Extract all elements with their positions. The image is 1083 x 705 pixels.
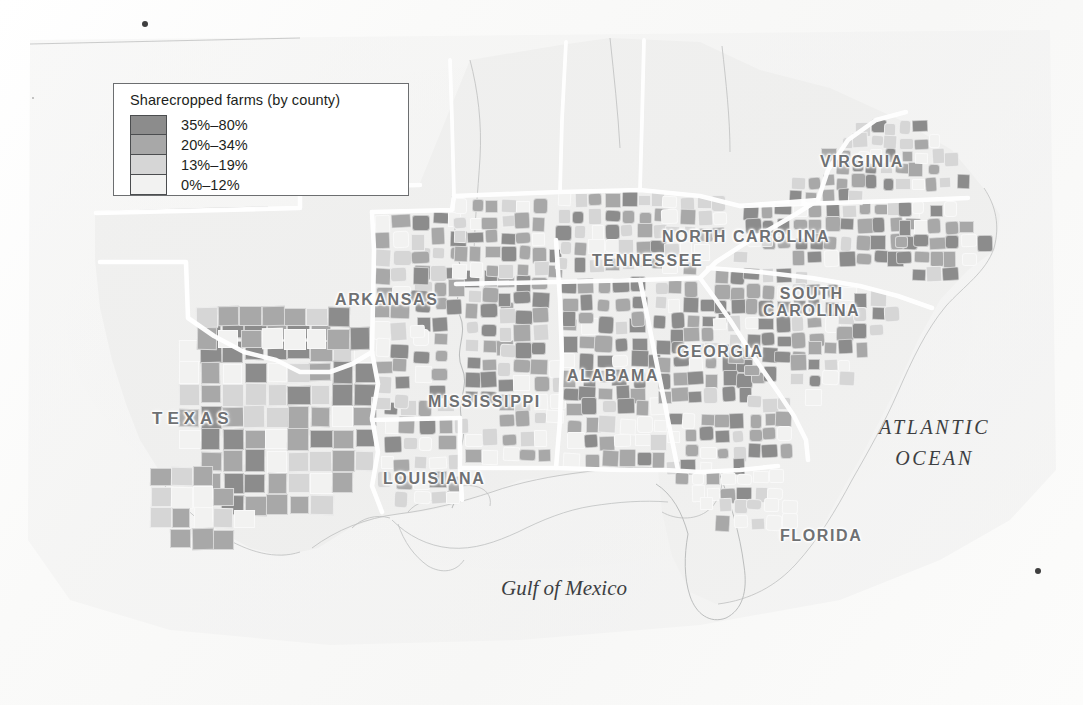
county-cell (790, 373, 804, 385)
county-cell (391, 214, 411, 229)
county-cell (589, 259, 605, 273)
county-cell (179, 361, 199, 384)
county-cell (929, 133, 940, 147)
county-cell (287, 386, 311, 405)
county-cell (574, 257, 586, 273)
county-cell (374, 248, 392, 267)
county-cell (744, 365, 760, 377)
county-cell (758, 317, 774, 329)
county-cell (683, 296, 699, 313)
county-cell (706, 472, 720, 485)
county-cell (926, 265, 942, 282)
county-cell (721, 473, 737, 485)
county-cell (764, 498, 780, 512)
county-cell (284, 328, 306, 349)
county-cell (579, 293, 593, 311)
county-cell (332, 450, 355, 472)
county-cell (776, 267, 793, 283)
county-cell (515, 409, 531, 426)
county-cell (533, 394, 548, 410)
county-cell (327, 329, 350, 350)
county-cell (517, 264, 530, 276)
county-cell (213, 530, 234, 550)
county-cell (604, 224, 619, 240)
county-cell (432, 247, 445, 260)
county-cell (684, 226, 697, 242)
county-cell (171, 487, 194, 509)
county-cell (825, 216, 841, 233)
county-cell (432, 212, 449, 225)
county-cell (808, 204, 822, 218)
county-cell (791, 177, 806, 191)
county-cell (373, 232, 390, 249)
county-cell (661, 209, 679, 225)
county-cell (822, 370, 839, 386)
legend-swatch (130, 175, 167, 195)
county-cell (392, 286, 411, 302)
county-cell (393, 250, 413, 266)
county-cell (213, 488, 235, 506)
county-cell (736, 486, 752, 499)
county-cell (636, 416, 653, 433)
county-cell (637, 452, 652, 466)
county-cell (383, 436, 401, 453)
county-cell (612, 354, 629, 367)
county-cell (597, 414, 615, 432)
county-cell (807, 176, 821, 189)
county-cell (531, 306, 549, 322)
county-cell (584, 433, 599, 447)
county-cell (961, 233, 978, 247)
county-cell (531, 342, 546, 355)
county-cell (667, 280, 681, 294)
county-cell (782, 499, 799, 513)
county-cell (429, 384, 447, 398)
county-cell (793, 219, 808, 230)
county-cell (657, 373, 670, 390)
county-cell (287, 362, 310, 382)
county-cell (793, 300, 807, 314)
county-cell (413, 267, 429, 285)
county-cell (266, 494, 288, 515)
county-cell (789, 190, 802, 206)
county-cell (172, 508, 190, 528)
county-cell (927, 218, 941, 235)
county-cell (395, 376, 411, 389)
county-cell (244, 449, 265, 472)
county-cell (502, 447, 520, 462)
county-cell (957, 174, 970, 190)
county-cell (924, 177, 937, 192)
legend-swatch (130, 115, 167, 135)
county-cell (728, 413, 743, 429)
county-cell (392, 358, 407, 372)
county-cell (664, 243, 680, 258)
county-cell (480, 391, 498, 405)
county-cell (454, 246, 469, 262)
county-cell (638, 195, 651, 207)
county-cell (688, 390, 703, 403)
legend-swatch (130, 155, 167, 175)
county-cell (435, 350, 448, 363)
county-cell (468, 290, 482, 303)
county-cell (567, 432, 585, 449)
county-cell (538, 448, 551, 461)
county-cell (795, 238, 808, 250)
legend-title: Sharecropped farms (by county) (130, 93, 408, 109)
county-cell (630, 276, 646, 292)
county-cell (911, 119, 928, 131)
county-cell (532, 216, 546, 231)
county-cell (912, 179, 925, 190)
legend-entry: 0%–12% (130, 175, 408, 195)
county-cell (151, 487, 173, 507)
county-cell (310, 430, 333, 448)
county-cell (514, 211, 530, 228)
county-cell (454, 230, 466, 244)
county-cell (150, 507, 172, 528)
county-cell (715, 267, 730, 283)
county-cell (808, 358, 820, 370)
county-cell (574, 225, 587, 239)
county-cell (310, 495, 334, 516)
county-cell (288, 451, 309, 472)
county-cell (727, 315, 742, 333)
county-cell (498, 264, 514, 279)
county-cell (512, 359, 530, 373)
